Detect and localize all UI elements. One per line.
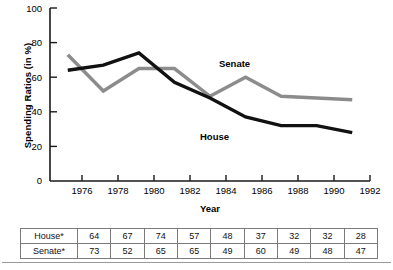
table-cell: 49	[277, 244, 310, 259]
plot-area: Spending Ratios (in %) 100 80 60 40 20 0…	[0, 0, 393, 215]
data-table: House*646774574837323228Senate*735265654…	[20, 228, 378, 259]
table-row-label: House*	[21, 229, 78, 244]
series-label-house: House	[200, 131, 229, 142]
table-cell: 65	[177, 244, 210, 259]
x-tick-label-1978: 1978	[100, 186, 136, 196]
table-cell: 57	[177, 229, 210, 244]
table-cell: 28	[344, 229, 377, 244]
x-tick-label-1982: 1982	[172, 186, 208, 196]
footer-rule	[2, 262, 391, 263]
series-label-senate: Senate	[219, 58, 250, 69]
table-cell: 73	[78, 244, 111, 259]
table-row-label: Senate*	[21, 244, 78, 259]
table-cell: 60	[244, 244, 277, 259]
chart-canvas	[0, 0, 393, 215]
x-tick-label-1988: 1988	[280, 186, 316, 196]
y-axis-title: Spending Ratios (in %)	[22, 11, 33, 181]
y-tick-label-20: 20	[16, 142, 42, 151]
y-tick-label-80: 80	[16, 38, 42, 47]
table-cell: 52	[111, 244, 144, 259]
table-cell: 48	[211, 229, 244, 244]
y-tick-label-0: 0	[16, 176, 42, 185]
x-tick-label-1992: 1992	[352, 186, 388, 196]
x-tick-label-1990: 1990	[316, 186, 352, 196]
table-cell: 64	[78, 229, 111, 244]
table-cell: 65	[144, 244, 177, 259]
chart-figure: Spending Ratios (in %) 100 80 60 40 20 0…	[0, 0, 393, 270]
x-tick-marks	[82, 175, 370, 181]
table-cell: 67	[111, 229, 144, 244]
table-cell: 48	[311, 244, 344, 259]
y-tick-label-60: 60	[16, 73, 42, 82]
y-tick-label-100: 100	[16, 4, 42, 13]
x-tick-label-1980: 1980	[136, 186, 172, 196]
x-tick-label-1976: 1976	[64, 186, 100, 196]
x-tick-label-1984: 1984	[208, 186, 244, 196]
y-tick-label-40: 40	[16, 107, 42, 116]
table-cell: 32	[277, 229, 310, 244]
y-tick-marks	[50, 8, 57, 146]
table-cell: 47	[344, 244, 377, 259]
table-cell: 74	[144, 229, 177, 244]
x-tick-label-1986: 1986	[244, 186, 280, 196]
x-axis-title: Year	[0, 203, 393, 214]
table-cell: 37	[244, 229, 277, 244]
table-row: House*646774574837323228	[21, 229, 378, 244]
table-cell: 32	[311, 229, 344, 244]
series-line-house	[68, 53, 352, 133]
table-row: Senate*735265654960494847	[21, 244, 378, 259]
table-cell: 49	[211, 244, 244, 259]
